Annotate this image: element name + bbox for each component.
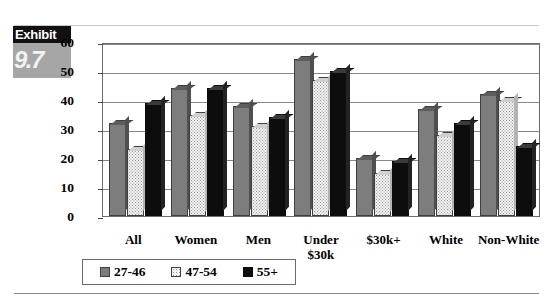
x-axis-label: $30k+ [353,232,415,262]
plot-area [102,43,540,217]
bar-slot [454,44,471,216]
x-axis-label-line: $30k+ [353,232,415,247]
bar-slot [127,44,144,216]
bar-group [356,44,409,216]
bar-group [171,44,224,216]
bar[interactable] [356,158,373,216]
legend-label: 55+ [257,264,278,280]
y-axis-tick-label: 50 [40,67,74,77]
bar-slot [251,44,268,216]
x-axis-label-line: Non-White [478,232,540,247]
x-axis-label-line: $30k [290,247,352,262]
x-axis-label-line: Women [165,232,227,247]
bar-slot [171,44,188,216]
y-axis-tick-label: 40 [40,96,74,106]
bar[interactable] [312,80,329,216]
bar[interactable] [516,146,533,216]
y-axis-tick-label: 10 [40,183,74,193]
x-axis-label-line: Men [227,232,289,247]
top-divider [14,25,539,26]
bar-group [294,44,347,216]
bar-groups [103,44,539,216]
bar-slot [436,44,453,216]
legend-label: 27-46 [114,264,146,280]
x-axis-label: Women [165,232,227,262]
legend-swatch [243,267,253,277]
bar[interactable] [171,88,188,216]
bar[interactable] [392,161,409,216]
bar[interactable] [233,106,250,216]
bar[interactable] [189,115,206,217]
bar[interactable] [145,103,162,216]
bar-slot [312,44,329,216]
bar-slot [109,44,126,216]
x-axis-label: Non-White [478,232,540,262]
bottom-divider [14,293,539,294]
bar-slot [480,44,497,216]
bar[interactable] [251,126,268,216]
y-axis-tick-label: 20 [40,154,74,164]
x-axis-label: White [415,232,477,262]
x-axis-label: All [102,232,164,262]
bar[interactable] [418,109,435,216]
bar-slot [233,44,250,216]
bar-chart: 0102030405060 [72,36,540,228]
bar-slot [145,44,162,216]
legend-item[interactable]: 47-54 [171,264,217,280]
bar-slot [207,44,224,216]
bar[interactable] [294,59,311,216]
bar-slot [269,44,286,216]
bar-slot [498,44,515,216]
x-axis-label-line: Under [290,232,352,247]
bar[interactable] [109,123,126,216]
y-axis-tick-mark [98,218,103,219]
chart-legend: 27-4647-5455+ [82,259,296,285]
bar-slot [392,44,409,216]
bar-slot [418,44,435,216]
bar-slot [294,44,311,216]
bar[interactable] [127,149,144,216]
y-axis-tick-label: 0 [40,212,74,222]
bar-slot [189,44,206,216]
bar[interactable] [269,117,286,216]
bar[interactable] [498,100,515,216]
bar[interactable] [454,123,471,216]
y-axis-tick-label: 60 [40,38,74,48]
y-axis-tick-label: 30 [40,125,74,135]
x-axis-label: Men [227,232,289,262]
bar-group [480,44,533,216]
bar[interactable] [330,71,347,216]
x-axis-label-line: All [102,232,164,247]
bar-slot [356,44,373,216]
bar-group [233,44,286,216]
x-axis-label: Under$30k [290,232,352,262]
legend-swatch [171,267,181,277]
legend-label: 47-54 [185,264,217,280]
bar-slot [330,44,347,216]
legend-item[interactable]: 55+ [243,264,278,280]
x-axis-label-line: White [415,232,477,247]
bar[interactable] [480,94,497,216]
bar-slot [374,44,391,216]
legend-item[interactable]: 27-46 [100,264,146,280]
bar[interactable] [374,173,391,217]
bar-group [418,44,471,216]
bar[interactable] [207,88,224,216]
x-axis-labels: AllWomenMenUnder$30k$30k+WhiteNon-White [102,232,540,262]
bar-slot [516,44,533,216]
bar-group [109,44,162,216]
legend-swatch [100,267,110,277]
bar[interactable] [436,135,453,216]
